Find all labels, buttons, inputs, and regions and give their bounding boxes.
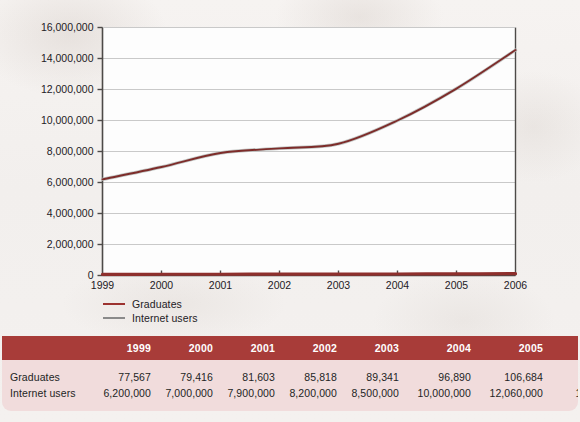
table-spacer-row-bottom (2, 401, 578, 411)
table-cell-internet-2002: 8,200,000 (284, 385, 346, 401)
table-cell-internet-2000: 7,000,000 (160, 385, 222, 401)
table-col-header-1999: 1999 (98, 336, 160, 360)
x-axis-tick-label: 2004 (386, 279, 410, 291)
line-chart: 02,000,0004,000,0006,000,0008,000,00010,… (0, 0, 580, 330)
table-cell-graduates-2004: 96,890 (408, 369, 480, 385)
x-axis-tick-label: 2006 (504, 279, 528, 291)
y-axis-tick-label: 10,000,000 (41, 114, 94, 126)
table-cell-graduates-1999: 77,567 (98, 369, 160, 385)
table-cell-internet-2004: 10,000,000 (408, 385, 480, 401)
data-table-container: 1999 2000 2001 2002 2003 2004 2005 2006 … (2, 336, 578, 411)
table-cell-graduates-2003: 89,341 (346, 369, 408, 385)
table-col-header-2003: 2003 (346, 336, 408, 360)
table-header: 1999 2000 2001 2002 2003 2004 2005 2006 (2, 336, 578, 360)
x-axis-tick-label: 2003 (327, 279, 351, 291)
legend-label-graduates: Graduates (132, 298, 182, 310)
table-cell-graduates-2005: 106,684 (480, 369, 552, 385)
x-axis-tick-label: 1999 (91, 279, 115, 291)
y-axis-tick-label: 8,000,000 (47, 145, 94, 157)
legend-swatch-internet-users (103, 317, 125, 319)
table-col-header-2002: 2002 (284, 336, 346, 360)
x-axis-tick-label: 2001 (209, 279, 233, 291)
series-line-graduates (103, 274, 516, 275)
y-axis-tick-label: 14,000,000 (41, 52, 94, 64)
table-col-header-2005: 2005 (480, 336, 552, 360)
table-row: Internet users 6,200,000 7,000,000 7,900… (2, 385, 578, 401)
chart-canvas: 02,000,0004,000,0006,000,0008,000,00010,… (0, 0, 580, 330)
data-table: 1999 2000 2001 2002 2003 2004 2005 2006 … (2, 336, 578, 411)
y-axis-tick-label: 6,000,000 (47, 176, 94, 188)
table-row-label-graduates: Graduates (2, 369, 98, 385)
y-axis-tick-label: 2,000,000 (47, 238, 94, 250)
legend-label-internet-users: Internet users (132, 312, 198, 324)
table-cell-internet-2003: 8,500,000 (346, 385, 408, 401)
table-row: Graduates 77,567 79,416 81,603 85,818 89… (2, 369, 578, 385)
table-body: Graduates 77,567 79,416 81,603 85,818 89… (2, 360, 578, 411)
table-corner-header (2, 336, 98, 360)
table-cell-graduates-2006: 117,392 (552, 369, 578, 385)
table-cell-graduates-2000: 79,416 (160, 369, 222, 385)
table-row-label-internet-users: Internet users (2, 385, 98, 401)
table-cell-graduates-2002: 85,818 (284, 369, 346, 385)
table-col-header-2001: 2001 (222, 336, 284, 360)
figure-root: 02,000,0004,000,0006,000,0008,000,00010,… (0, 0, 580, 422)
legend-item-graduates: Graduates (103, 297, 323, 310)
table-col-header-2000: 2000 (160, 336, 222, 360)
y-axis-tick-label: 16,000,000 (41, 21, 94, 33)
table-cell-internet-2005: 12,060,000 (480, 385, 552, 401)
chart-legend: Graduates Internet users (103, 297, 323, 325)
y-axis-tick-label: 4,000,000 (47, 207, 94, 219)
table-cell-internet-1999: 6,200,000 (98, 385, 160, 401)
table-cell-internet-2006: 14,544,360 (552, 385, 578, 401)
table-col-header-2006: 2006 (552, 336, 578, 360)
x-axis-tick-label: 2005 (445, 279, 469, 291)
table-cell-graduates-2001: 81,603 (222, 369, 284, 385)
legend-swatch-graduates (103, 303, 125, 305)
table-spacer-row-top (2, 360, 578, 369)
table-col-header-2004: 2004 (408, 336, 480, 360)
y-axis-tick-label: 12,000,000 (41, 83, 94, 95)
table-header-row: 1999 2000 2001 2002 2003 2004 2005 2006 (2, 336, 578, 360)
legend-item-internet-users: Internet users (103, 311, 323, 324)
x-axis-tick-label: 2002 (268, 279, 292, 291)
table-cell-internet-2001: 7,900,000 (222, 385, 284, 401)
x-axis-tick-label: 2000 (150, 279, 174, 291)
